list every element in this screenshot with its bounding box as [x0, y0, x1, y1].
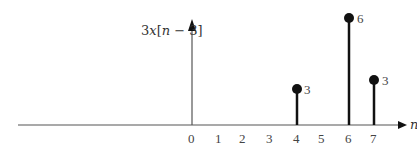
x-axis-arrow-icon: [398, 121, 407, 129]
tick-labels: 0 1 2 3 4 5 6 7: [188, 131, 377, 146]
tick-label: 3: [266, 131, 273, 146]
stem-n4: 3: [292, 82, 311, 125]
y-axis-label: 3x[n − 3]: [141, 23, 203, 38]
tick-label: 5: [318, 131, 325, 146]
stem-n7: 3: [369, 73, 389, 125]
stem-plot: n 3x[n − 3] 0 1 2 3 4 5 6 7 3 6 3: [0, 0, 417, 153]
stem-value-label: 3: [304, 82, 311, 97]
tick-label: 1: [215, 131, 222, 146]
x-axis-label: n: [410, 117, 417, 132]
tick-label: 6: [345, 131, 352, 146]
tick-label: 0: [188, 131, 195, 146]
stem-n6: 6: [344, 11, 364, 125]
tick-label: 7: [370, 131, 377, 146]
stem-marker: [344, 13, 354, 23]
tick-label: 2: [239, 131, 246, 146]
tick-label: 4: [293, 131, 300, 146]
stem-value-label: 6: [357, 11, 364, 26]
stem-value-label: 3: [382, 73, 389, 88]
stem-marker: [292, 84, 302, 94]
stem-marker: [369, 75, 379, 85]
